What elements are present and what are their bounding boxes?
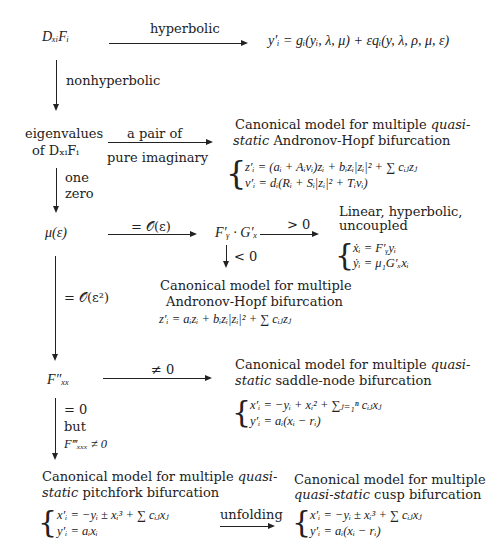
arrowhead-right-icon xyxy=(312,231,319,237)
edge-label-pair-of: a pair of xyxy=(127,126,182,141)
pitchfork-title-line1: Canonical model for multiple quasi- xyxy=(42,469,277,484)
saddle-eq2: y′ᵢ = aᵢ(xᵢ − rᵢ) xyxy=(250,414,321,429)
edge-label-zero: zero xyxy=(65,186,94,201)
edge-label-pure-imaginary: pure imaginary xyxy=(107,150,208,165)
hopf-title-line1: Canonical model for multiple xyxy=(160,278,352,293)
arrowhead-right-icon xyxy=(206,139,213,145)
cusp-eq2: y′ᵢ = aᵢ(xᵢ − rᵢ) xyxy=(310,524,381,539)
qs-hopf-eq1: z′ᵢ = (aᵢ + Aᵢvᵢ)zᵢ + bᵢzᵢ|zᵢ|² + ∑ cᵢⱼz… xyxy=(245,160,417,175)
edge-label-lt0: < 0 xyxy=(234,249,257,264)
arrow-eq0 xyxy=(55,398,56,453)
arrow-o-eps2 xyxy=(55,256,56,355)
arrow-pure-imaginary xyxy=(108,142,206,143)
node-hyperbolic-result: y′ᵢ = gᵢ(yᵢ, λ, μ) + εqᵢ(y, λ, ρ, μ, ε) xyxy=(268,33,449,48)
arrow-unfolding xyxy=(220,526,268,527)
brace-icon: { xyxy=(232,396,251,428)
arrow-neq0 xyxy=(103,378,206,379)
hopf-title-line2: Andronov-Hopf bifurcation xyxy=(166,294,343,309)
arrow-nonhyperbolic xyxy=(56,60,57,104)
saddle-title-line2: static saddle-node bifurcation xyxy=(235,373,432,388)
edge-label-unfolding: unfolding xyxy=(220,507,283,522)
linear-eq2: ẏᵢ = μ₁G′ₓxᵢ xyxy=(353,256,409,271)
arrow-lt0 xyxy=(226,245,227,261)
qs-hopf-title-line1: Canonical model for multiple quasi- xyxy=(235,117,470,132)
qs-hopf-title-line2: static Andronov-Hopf bifurcation xyxy=(233,133,450,148)
arrowhead-right-icon xyxy=(268,523,275,529)
saddle-title-line1: Canonical model for multiple quasi- xyxy=(235,357,470,372)
arrowhead-down-icon xyxy=(53,104,59,111)
cusp-title-line1: Canonical model for multiple xyxy=(294,472,486,487)
pitchfork-eq2: y′ᵢ = aᵢxᵢ xyxy=(57,524,98,539)
edge-label-neq0: ≠ 0 xyxy=(151,362,174,377)
arrowhead-right-icon xyxy=(190,231,197,237)
qs-hopf-eq2: v′ᵢ = dᵢ(Rᵢ + Sᵢ|zᵢ|² + Tᵢvᵢ) xyxy=(245,176,368,191)
cusp-eq1: x′ᵢ = −yᵢ ± xᵢ³ + ∑ cᵢⱼxⱼ xyxy=(310,508,422,523)
node-fxx: F″ₓₓ xyxy=(47,372,69,387)
saddle-eq1: x′ᵢ = −yᵢ + xᵢ² + ∑ⱼ₌₁ⁿ cᵢⱼxⱼ xyxy=(250,398,381,413)
node-fg: F′ᵧ · G′ₓ xyxy=(215,225,258,240)
node-eigenvalues-line2: of DₓᵢFᵢ xyxy=(32,143,79,158)
edge-label-eq0: = 0 xyxy=(64,402,87,417)
arrowhead-down-icon xyxy=(53,206,59,213)
brace-icon: { xyxy=(335,239,354,271)
edge-label-but: but xyxy=(64,419,86,434)
node-eigenvalues-line1: eigenvalues xyxy=(25,126,103,141)
pitchfork-title-line2: static pitchfork bifurcation xyxy=(42,485,219,500)
hopf-eq1: z′ᵢ = aᵢzᵢ + bᵢzᵢ|zᵢ|² + ∑ cᵢⱼzⱼ xyxy=(159,312,291,327)
linear-title-line2: uncoupled xyxy=(339,218,408,233)
arrowhead-down-icon xyxy=(223,261,229,268)
edge-label-o-eps2: = 𝒪(ε²) xyxy=(64,290,109,305)
brace-icon: { xyxy=(38,506,57,538)
arrow-hyperbolic xyxy=(109,43,241,44)
edge-label-fxxx: F‴ₓₓₓ ≠ 0 xyxy=(64,437,107,452)
edge-label-gt0: > 0 xyxy=(287,217,310,232)
edge-label-one: one xyxy=(65,170,89,185)
arrowhead-right-icon xyxy=(205,375,212,381)
linear-eq1: ẋᵢ = F′ᵧyᵢ xyxy=(353,241,396,256)
arrow-o-eps xyxy=(108,234,190,235)
edge-label-nonhyperbolic: nonhyperbolic xyxy=(66,73,160,88)
arrowhead-right-icon xyxy=(241,40,248,46)
arrowhead-down-icon xyxy=(52,354,58,361)
arrowhead-down-icon xyxy=(52,453,58,460)
brace-icon: { xyxy=(226,156,246,190)
arrow-gt0 xyxy=(260,234,313,235)
edge-label-hyperbolic: hyperbolic xyxy=(150,21,220,36)
cusp-title-line2: quasi-static cusp bifurcation xyxy=(294,487,481,502)
brace-icon: { xyxy=(292,506,311,538)
pitchfork-eq1: x′ᵢ = −yᵢ ± xᵢ³ + ∑ cᵢⱼxⱼ xyxy=(57,508,169,523)
node-mu-eps: μ(ε) xyxy=(45,225,67,240)
arrow-one-zero xyxy=(56,168,57,207)
node-dxf: DₓᵢFᵢ xyxy=(42,29,69,44)
linear-title-line1: Linear, hyperbolic, xyxy=(339,204,462,219)
edge-label-o-eps: = 𝒪(ε) xyxy=(131,219,171,234)
